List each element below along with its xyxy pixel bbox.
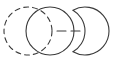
dashed-circle-shape: [4, 7, 52, 55]
solid-circle-shape: [26, 7, 74, 55]
diagram-svg: Two overlapping circles linked by a dash…: [0, 0, 118, 62]
diagram-canvas: Two overlapping circles linked by a dash…: [0, 0, 118, 62]
